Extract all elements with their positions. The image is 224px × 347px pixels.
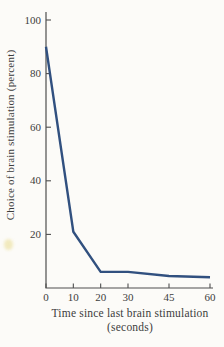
- y-tick-label: 100: [25, 14, 42, 26]
- y-tick-label: 20: [30, 228, 42, 240]
- y-axis-label: Choice of brain stimulation (percent): [4, 50, 16, 221]
- y-tick-label: 80: [30, 67, 42, 79]
- line-chart-canvas: 2040608010001020304560: [0, 0, 224, 347]
- brain-stimulation-figure: 2040608010001020304560 Choice of brain s…: [0, 0, 224, 347]
- y-tick-label: 60: [30, 121, 42, 133]
- x-tick-label: 30: [123, 291, 135, 303]
- x-axis-label-line1: Time since last brain stimulation: [40, 306, 220, 320]
- data-line-choice-of-brain-stimulation: [46, 47, 210, 277]
- x-tick-label: 10: [68, 291, 80, 303]
- x-tick-label: 0: [43, 291, 49, 303]
- x-tick-label: 20: [95, 291, 107, 303]
- x-tick-label: 60: [205, 291, 217, 303]
- x-axis-label: Time since last brain stimulation (secon…: [40, 306, 220, 334]
- y-tick-label: 40: [30, 174, 42, 186]
- axis-lines: [46, 12, 213, 288]
- x-axis-label-line2: (seconds): [40, 320, 220, 334]
- x-tick-label: 45: [164, 291, 176, 303]
- scan-smudge-artifact: [4, 239, 13, 250]
